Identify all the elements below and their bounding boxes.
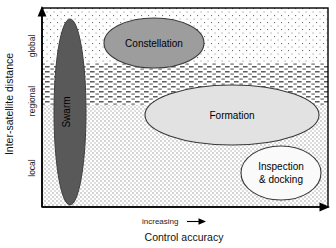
inspection-docking-ellipse[interactable] xyxy=(241,146,321,200)
x-axis-increasing-note: increasing xyxy=(142,217,206,226)
increasing-arrowhead-icon xyxy=(199,218,207,225)
y-tick-regional: regional xyxy=(27,86,37,116)
y-tick-global: global xyxy=(27,35,37,58)
quadrant-chart: Constellation Formation Inspection & doc… xyxy=(0,0,336,248)
y-axis-title: Inter-satellite distance xyxy=(3,53,15,155)
y-tick-local: local xyxy=(27,159,37,177)
region-formation[interactable]: Formation xyxy=(145,85,319,145)
swarm-label: Swarm xyxy=(61,96,72,127)
x-axis-title: Control accuracy xyxy=(145,231,225,243)
increasing-label: increasing xyxy=(142,217,178,226)
formation-label: Formation xyxy=(209,110,254,121)
region-constellation[interactable]: Constellation xyxy=(104,18,204,68)
constellation-label: Constellation xyxy=(125,38,183,49)
inspection-docking-label-line1: Inspection xyxy=(258,161,304,172)
diagram-root: Constellation Formation Inspection & doc… xyxy=(0,0,336,248)
region-swarm[interactable]: Swarm xyxy=(54,19,86,205)
region-inspection-docking[interactable]: Inspection & docking xyxy=(241,146,321,200)
inspection-docking-label-line2: & docking xyxy=(259,174,303,185)
